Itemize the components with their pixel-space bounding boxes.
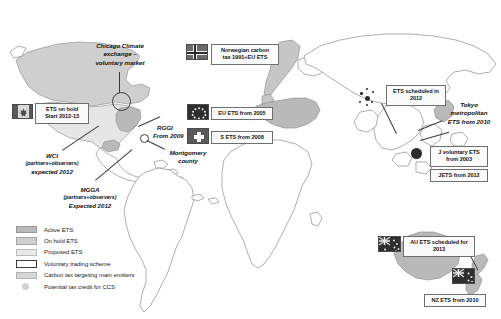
callout-switzerland: S ETS from 2008 [211,131,273,144]
canada-flag [12,104,33,119]
legend-item-proposed-ets: Proposed ETS [16,247,206,258]
callout-norway-line-1: Norwegian carbon [215,47,275,54]
callout-new-zealand-line-1: NZ ETS from 2010 [428,297,482,304]
callout-switzerland-line-1: S ETS from 2008 [215,134,269,141]
australia-flag [378,236,401,252]
label-mgga-line-3: Expected 2012 [45,202,135,210]
eu-flag [187,104,209,120]
callout-china-line-1: ETS scheduled in [390,88,442,95]
label-montgomery-line-2: county [163,157,213,165]
callout-canada-line-1: ETS on hold [39,106,85,113]
callout-japan-voluntary-line-2: from 2003 [434,156,484,163]
chicago-leader-line [119,72,120,93]
callout-norway-line-2: tax 1991+EU ETS [215,54,275,61]
label-chicago-climate-exchange: Chicago Climate exchange – voluntary mar… [78,42,162,67]
new-zealand-flag [452,268,475,284]
label-rggi: RGGI From 2009 [157,124,201,141]
label-chicago-line-3: voluntary market [78,59,162,67]
caribbean-islands [190,190,230,210]
callout-eu: EU ETS from 2005 [211,107,273,120]
voluntary-scheme-swatch [16,260,37,268]
proposed-ets-swatch [16,249,37,257]
label-tokyo-metropolitan: Tokyo metropolitan ETS from 2010 [440,101,498,126]
label-wci-line-1: WCI [10,152,94,160]
on-hold-ets-swatch [16,237,37,245]
callout-norway: Norwegian carbon tax 1991+EU ETS [211,44,279,65]
label-tokyo-line-1: Tokyo [440,101,498,109]
legend-label-ccs-credit: Potential tax credit for CCS [44,284,115,290]
ccs-credit-swatch [16,283,37,291]
label-mgga-line-1: MGGA [45,186,135,194]
label-rggi-line-2: From 2009 [153,132,201,140]
world-carbon-pricing-map: ETS on hold Start 2012-13 Norwegian carb… [0,0,501,319]
label-montgomery-county: Montgomery county [163,149,213,166]
callout-eu-line-1: EU ETS from 2005 [215,110,269,117]
label-tokyo-line-2: metropolitan [440,109,498,117]
legend-item-voluntary-scheme: Voluntary trading scheme [16,258,206,269]
japan-voluntary-marker-dot [411,148,422,159]
norway-flag [186,44,208,60]
label-chicago-line-2: exchange – [78,50,162,58]
callout-jets: JETS from 2012 [430,169,488,182]
legend-item-active-ets: Active ETS [16,224,206,235]
legend-item-on-hold-ets: On hold ETS [16,235,206,246]
callout-canada-line-2: Start 2012-13 [39,113,85,120]
label-wci: WCI (partners+observers) expected 2012 [10,152,94,176]
callout-australia: AU ETS scheduled for 2013 [403,236,475,257]
label-montgomery-line-1: Montgomery [163,149,213,157]
label-mgga-line-2: (partners+observers) [45,194,135,201]
map-legend: Active ETS On hold ETS Proposed ETS Volu… [16,224,206,292]
label-rggi-line-1: RGGI [157,124,201,132]
legend-item-carbon-tax: Carbon tax targeting main emitters [16,270,206,281]
callout-china-line-2: 2012 [390,95,442,102]
active-ets-swatch [16,226,37,234]
chicago-marker-ring [112,92,131,111]
carbon-tax-swatch [16,272,37,280]
callout-canada: ETS on hold Start 2012-13 [35,103,89,124]
label-wci-line-2: (partners+observers) [10,160,94,167]
label-wci-line-3: expected 2012 [10,168,94,176]
label-tokyo-line-3: ETS from 2010 [440,118,498,126]
callout-japan-voluntary-line-1: J voluntary ETS [434,149,484,156]
callout-australia-line-2: 2013 [407,246,471,253]
label-chicago-line-1: Chicago Climate [78,42,162,50]
callout-australia-line-1: AU ETS scheduled for [407,239,471,246]
legend-label-voluntary-scheme: Voluntary trading scheme [44,261,111,267]
callout-jets-line-1: JETS from 2012 [434,172,484,179]
legend-label-on-hold-ets: On hold ETS [44,238,78,244]
callout-china: ETS scheduled in 2012 [386,85,446,106]
callout-new-zealand: NZ ETS from 2010 [424,294,486,307]
legend-label-proposed-ets: Proposed ETS [44,249,82,255]
label-mgga: MGGA (partners+observers) Expected 2012 [45,186,135,210]
legend-label-active-ets: Active ETS [44,227,73,233]
callout-japan-voluntary: J voluntary ETS from 2003 [430,146,488,167]
legend-item-ccs-credit: Potential tax credit for CCS [16,281,206,292]
legend-label-carbon-tax: Carbon tax targeting main emitters [44,272,134,278]
